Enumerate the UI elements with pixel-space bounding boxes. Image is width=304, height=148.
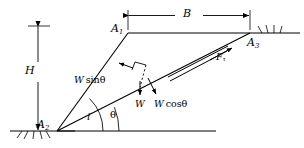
point-label-a3: A3 bbox=[247, 37, 259, 49]
force-label-w: W bbox=[135, 99, 145, 109]
w-cos-theta-arrow bbox=[148, 78, 156, 94]
force-label-w-sin-theta: W sinθ bbox=[74, 75, 105, 85]
dimension-h bbox=[28, 26, 50, 130]
angle-arc-i bbox=[90, 99, 103, 131]
ground-hatching-right bbox=[258, 25, 282, 33]
w-sin-theta-arrow bbox=[119, 63, 133, 68]
angle-label-i: i bbox=[87, 112, 90, 122]
ground-left bbox=[10, 131, 75, 139]
ground-hatching-left bbox=[17, 131, 50, 139]
soil-element-block bbox=[132, 62, 146, 87]
force-label-f-tau: Fτ bbox=[216, 52, 226, 63]
ground-right bbox=[250, 25, 300, 33]
force-label-w-cos-theta: W cosθ bbox=[154, 99, 187, 109]
dimension-label-b: B bbox=[183, 8, 191, 19]
dimension-label-h: H bbox=[25, 65, 35, 76]
point-label-a2: A2 bbox=[37, 119, 49, 131]
point-label-a1: A1 bbox=[111, 23, 123, 35]
angle-label-theta: θ bbox=[110, 110, 116, 120]
slope-stability-figure: A1 A2 A3 B H i θ W sinθ W W cosθ Fτ bbox=[0, 0, 304, 148]
